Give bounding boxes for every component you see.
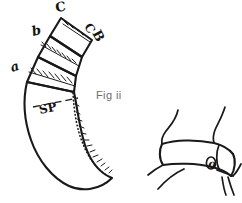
right-figure-group xyxy=(148,107,241,195)
segment-c-outline xyxy=(50,18,92,57)
neck-left-contour xyxy=(162,110,178,144)
label-a: a xyxy=(8,58,21,75)
collar-left-cap xyxy=(160,144,163,165)
collar-right-cap xyxy=(231,154,235,176)
neck-right-contour xyxy=(213,107,225,143)
segment-b xyxy=(38,36,82,76)
collar-top-edge xyxy=(162,140,233,154)
segment-c xyxy=(50,18,92,57)
label-sp: SP xyxy=(38,100,58,117)
figure-page: a b C C B SP o Fig ii xyxy=(0,0,242,203)
label-c-apex: C xyxy=(54,0,66,15)
shoulder-left-stroke xyxy=(148,165,163,175)
figure-canvas: a b C C B SP o xyxy=(0,0,242,203)
strap-stroke-2 xyxy=(228,177,234,195)
shoulder-left-stroke-2 xyxy=(158,169,184,189)
collar-clasp-divider xyxy=(217,145,219,169)
strap-stroke-1 xyxy=(222,177,226,195)
label-b: b xyxy=(30,22,42,39)
figure-caption: Fig ii xyxy=(96,89,122,101)
